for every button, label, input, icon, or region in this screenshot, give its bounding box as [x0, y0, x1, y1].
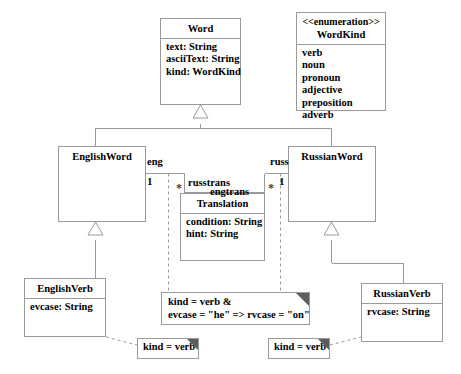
class-translation-attributes: condition: String hint: String [181, 214, 264, 243]
association-multiplicity-eng: 1 [147, 175, 153, 187]
class-translation[interactable]: Translation condition: String hint: Stri… [180, 193, 265, 261]
note-line: kind = verb & [168, 296, 304, 309]
note-russianverb-constraint[interactable]: kind = verb [268, 338, 330, 359]
uml-class-diagram: Word text: String asciiText: String kind… [0, 0, 461, 374]
class-wordkind-enumeration[interactable]: <<enumeration>> WordKind verb noun prono… [296, 12, 386, 111]
class-wordkind-name: WordKind [317, 29, 365, 40]
attribute: rvcase: String [367, 306, 442, 318]
note-fold-corner-icon [187, 339, 198, 350]
class-wordkind-title: <<enumeration>> WordKind [297, 13, 385, 45]
enumeration-stereotype: <<enumeration>> [301, 16, 381, 28]
note-line: evcase = "he" => rvcase = "on" [168, 309, 304, 322]
class-englishverb-title: EnglishVerb [25, 279, 105, 299]
generalization-triangle-russianword [324, 222, 339, 235]
note-translation-constraint-text: kind = verb & evcase = "he" => rvcase = … [162, 293, 309, 324]
class-englishword[interactable]: EnglishWord [58, 146, 146, 222]
enum-literal: pronoun [302, 72, 385, 84]
attribute: kind: WordKind [166, 66, 240, 78]
class-russianverb-attributes: rvcase: String [362, 304, 442, 320]
class-englishverb[interactable]: EnglishVerb evcase: String [24, 278, 106, 337]
attribute: evcase: String [30, 301, 105, 313]
association-role-eng: eng [147, 156, 163, 168]
attribute: condition: String [186, 216, 264, 228]
class-englishverb-attributes: evcase: String [25, 299, 105, 315]
class-wordkind-literals: verb noun pronoun adjective preposition … [297, 45, 385, 123]
note-leader-russianverb [330, 337, 361, 345]
attribute: text: String [166, 41, 240, 53]
enum-literal: preposition [302, 97, 385, 109]
enum-literal: adjective [302, 84, 385, 96]
enum-literal: verb [302, 47, 385, 59]
class-russianword[interactable]: RussianWord [288, 146, 376, 222]
class-russianword-title: RussianWord [289, 147, 375, 166]
attribute: asciiText: String [166, 53, 240, 65]
note-englishverb-constraint[interactable]: kind = verb [137, 338, 199, 359]
class-word-attributes: text: String asciiText: String kind: Wor… [161, 39, 240, 80]
class-word[interactable]: Word text: String asciiText: String kind… [160, 18, 241, 105]
generalization-triangle-word [193, 105, 208, 118]
note-fold-corner-icon [296, 293, 309, 306]
generalization-triangle-englishword [88, 222, 103, 235]
association-role-engtrans: engtrans [210, 186, 249, 198]
note-translation-constraint[interactable]: kind = verb & evcase = "he" => rvcase = … [161, 292, 310, 325]
class-englishword-title: EnglishWord [59, 147, 145, 166]
association-multiplicity-russ: 1 [279, 175, 285, 187]
note-leader-englishverb [106, 337, 137, 345]
association-multiplicity-russtrans: * [176, 182, 182, 194]
association-role-russ: russ [270, 156, 289, 168]
attribute: hint: String [186, 228, 264, 240]
note-fold-corner-icon [318, 339, 329, 350]
enum-literal: adverb [302, 109, 385, 121]
class-word-title: Word [161, 19, 240, 39]
enum-literal: noun [302, 59, 385, 71]
class-russianverb[interactable]: RussianVerb rvcase: String [361, 283, 443, 342]
class-russianverb-title: RussianVerb [362, 284, 442, 304]
association-multiplicity-engtrans: * [268, 182, 274, 194]
